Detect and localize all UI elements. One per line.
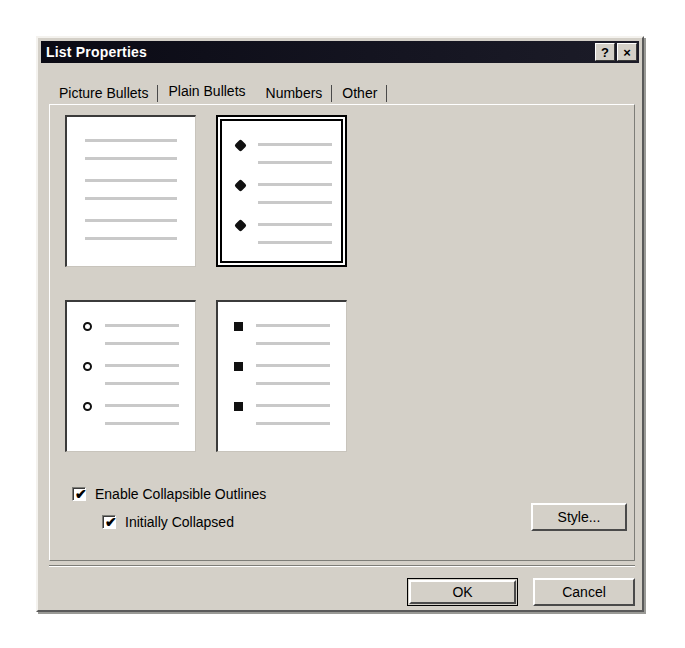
preview-text-line — [85, 157, 177, 160]
preview-content — [67, 302, 195, 451]
selection-frame — [220, 119, 343, 263]
preview-text-line — [256, 342, 330, 345]
tab-label: Other — [342, 85, 377, 101]
preview-text-line — [85, 219, 177, 222]
preview-text-line — [256, 364, 330, 367]
check-icon: ✔ — [105, 515, 117, 529]
bullet-preview-filled-square-bullets[interactable] — [216, 300, 347, 452]
preview-text-line — [85, 197, 177, 200]
circle-bullet-icon — [83, 402, 92, 411]
preview-text-line — [258, 223, 332, 226]
preview-text-line — [256, 382, 330, 385]
preview-text-line — [258, 161, 332, 164]
title-bar[interactable]: List Properties ? × — [41, 41, 639, 63]
preview-text-line — [85, 237, 177, 240]
help-icon[interactable]: ? — [595, 43, 615, 61]
tab-label: Picture Bullets — [59, 85, 148, 101]
bullet-preview-hollow-circle-bullets[interactable] — [65, 300, 196, 452]
enable-collapsible-outlines-row[interactable]: ✔ Enable Collapsible Outlines — [72, 486, 266, 502]
ok-button-label: OK — [409, 580, 516, 604]
preview-content — [222, 121, 341, 261]
ok-button[interactable]: OK — [407, 578, 518, 606]
square-bullet-icon — [234, 362, 243, 371]
tab-strip: Picture Bullets Plain Bullets Numbers Ot… — [49, 78, 635, 104]
enable-collapsible-outlines-label: Enable Collapsible Outlines — [95, 486, 266, 502]
plain-bullets-panel: ✔ Enable Collapsible Outlines ✔ Initiall… — [49, 104, 635, 561]
tab-label: Plain Bullets — [168, 83, 245, 99]
preview-text-line — [258, 183, 332, 186]
preview-text-line — [85, 139, 177, 142]
tab-picture-bullets[interactable]: Picture Bullets — [49, 82, 158, 104]
circle-bullet-icon — [83, 322, 92, 331]
preview-text-line — [85, 179, 177, 182]
circle-bullet-icon — [83, 362, 92, 371]
preview-text-line — [256, 422, 330, 425]
list-properties-dialog: List Properties ? × Picture Bullets Plai… — [36, 36, 644, 612]
preview-content — [67, 117, 195, 266]
preview-text-line — [105, 404, 179, 407]
preview-text-line — [258, 201, 332, 204]
tab-numbers[interactable]: Numbers — [256, 82, 333, 104]
preview-text-line — [258, 143, 332, 146]
preview-text-line — [258, 241, 332, 244]
footer-divider — [49, 565, 635, 567]
preview-text-line — [105, 364, 179, 367]
square-bullet-icon — [234, 402, 243, 411]
diamond-bullet-icon — [234, 179, 247, 192]
preview-text-line — [105, 324, 179, 327]
initially-collapsed-row[interactable]: ✔ Initially Collapsed — [102, 514, 234, 530]
enable-collapsible-outlines-checkbox[interactable]: ✔ — [72, 487, 86, 501]
cancel-button[interactable]: Cancel — [533, 578, 635, 606]
tab-divider — [386, 85, 387, 102]
preview-text-line — [105, 342, 179, 345]
window-title: List Properties — [46, 44, 593, 60]
initially-collapsed-label: Initially Collapsed — [125, 514, 234, 530]
tab-plain-bullets[interactable]: Plain Bullets — [158, 78, 255, 104]
bullet-preview-no-bullets[interactable] — [65, 115, 196, 267]
diamond-bullet-icon — [234, 139, 247, 152]
bullet-style-grid — [65, 115, 365, 465]
preview-text-line — [256, 404, 330, 407]
bullet-preview-diamond-bullets[interactable] — [216, 115, 347, 267]
style-button[interactable]: Style... — [531, 503, 627, 531]
square-bullet-icon — [234, 322, 243, 331]
preview-text-line — [256, 324, 330, 327]
initially-collapsed-checkbox[interactable]: ✔ — [102, 515, 116, 529]
preview-text-line — [105, 422, 179, 425]
tab-other[interactable]: Other — [332, 82, 387, 104]
check-icon: ✔ — [75, 487, 87, 501]
tab-label: Numbers — [266, 85, 323, 101]
diamond-bullet-icon — [234, 219, 247, 232]
preview-content — [218, 302, 346, 451]
close-icon[interactable]: × — [617, 43, 637, 61]
preview-text-line — [105, 382, 179, 385]
